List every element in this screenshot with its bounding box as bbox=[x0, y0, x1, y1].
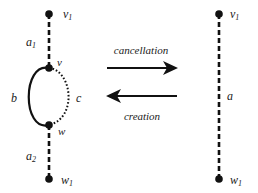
label-v: v bbox=[57, 56, 62, 68]
label-cancellation: cancellation bbox=[114, 44, 169, 56]
diagram-canvas: v1 v w w1 a1 b c a2 cancellation creatio… bbox=[0, 0, 258, 193]
vertex-w1 bbox=[45, 175, 53, 183]
label-creation: creation bbox=[124, 110, 161, 122]
vertex-w1-right bbox=[215, 175, 223, 183]
label-b: b bbox=[11, 91, 17, 105]
vertex-v bbox=[45, 64, 53, 72]
edge-b bbox=[29, 68, 49, 126]
vertex-v1-right bbox=[215, 10, 223, 18]
edge-c bbox=[49, 68, 69, 125]
label-w1: w1 bbox=[61, 173, 73, 188]
left-graph: v1 v w w1 a1 b c a2 bbox=[11, 7, 82, 188]
label-w1-right: w1 bbox=[230, 173, 242, 188]
label-c: c bbox=[76, 91, 82, 105]
transformation-arrows: cancellation creation bbox=[106, 44, 178, 122]
vertex-v1 bbox=[45, 10, 53, 18]
right-graph: v1 a w1 bbox=[215, 7, 242, 188]
vertex-w bbox=[45, 121, 53, 129]
label-a: a bbox=[227, 89, 233, 103]
label-a2: a2 bbox=[26, 149, 36, 164]
label-w: w bbox=[58, 125, 66, 137]
label-v1-right: v1 bbox=[230, 7, 239, 22]
label-v1: v1 bbox=[63, 7, 72, 22]
label-a1: a1 bbox=[26, 35, 36, 50]
